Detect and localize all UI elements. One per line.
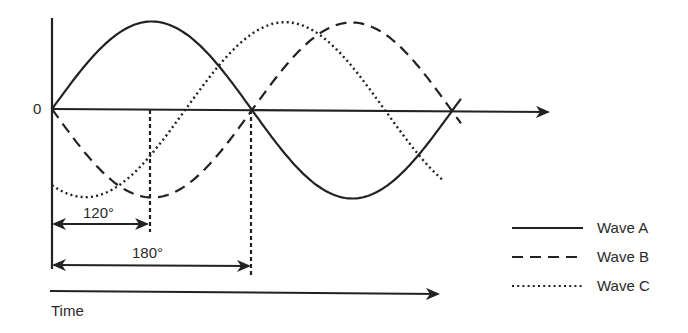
legend-item-wave-c: Wave C — [512, 277, 650, 294]
legend: Wave A Wave B Wave C — [512, 219, 650, 294]
legend-item-wave-b: Wave B — [512, 248, 649, 265]
time-label: Time — [51, 302, 84, 319]
interval-180-arrow — [54, 265, 249, 266]
time-arrow — [50, 291, 438, 294]
origin-label: 0 — [33, 100, 41, 117]
interval-180-label: 180° — [132, 244, 163, 261]
legend-label-wave-c: Wave C — [597, 277, 650, 294]
phase-diagram: 0 120° 180° Time Wave A Wave B Wave C — [0, 0, 688, 333]
interval-120-label: 120° — [83, 204, 114, 221]
legend-label-wave-a: Wave A — [597, 219, 648, 236]
legend-label-wave-b: Wave B — [597, 248, 649, 265]
horizontal-axis — [52, 109, 548, 112]
legend-item-wave-a: Wave A — [512, 219, 648, 236]
